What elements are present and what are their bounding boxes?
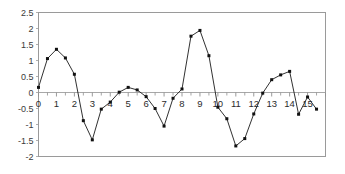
x-axis-tick-label: 13	[266, 98, 277, 109]
data-point-marker	[109, 101, 112, 104]
x-axis-tick-label: 9	[197, 98, 202, 109]
data-point-marker	[270, 78, 273, 81]
data-point-marker	[91, 138, 94, 141]
chart-container: 2.521.510.50-0.5-1-1.5-2 012345678910111…	[0, 0, 345, 174]
data-point-marker	[145, 95, 148, 98]
series-line-path	[39, 30, 317, 146]
data-point-marker	[261, 92, 264, 95]
data-point-marker	[37, 86, 40, 89]
x-axis-tick-label: 5	[126, 98, 131, 109]
data-point-marker	[216, 106, 219, 109]
data-point-marker	[172, 97, 175, 100]
data-point-marker	[82, 119, 85, 122]
data-point-marker	[279, 73, 282, 76]
y-axis-tick-label: 1.5	[21, 40, 34, 50]
plot-frame-group	[39, 13, 326, 157]
data-point-marker	[288, 70, 291, 73]
y-axis-tick-label: 0.5	[21, 72, 34, 82]
data-point-marker	[154, 107, 157, 110]
y-axis-labels: 2.521.510.50-0.5-1-1.5-2	[18, 8, 34, 162]
x-axis-tick-label: 1	[54, 98, 59, 109]
data-point-marker	[55, 48, 58, 51]
data-point-marker	[234, 144, 237, 147]
y-axis-tick-label: 1	[28, 56, 33, 66]
data-point-marker	[136, 88, 139, 91]
x-axis-tick-label: 8	[179, 98, 184, 109]
data-point-marker	[181, 87, 184, 90]
x-axis-tick-label: 11	[231, 98, 241, 109]
y-axis-tick-label: -0.5	[18, 104, 34, 114]
x-axis-tick-label: 0	[36, 98, 41, 109]
x-axis-tick-label: 14	[284, 98, 295, 109]
y-axis-tick-label: 2.5	[21, 8, 34, 18]
series-markers	[37, 29, 318, 148]
x-axis-tick-label: 7	[161, 98, 166, 109]
data-point-marker	[189, 35, 192, 38]
data-point-marker	[252, 112, 255, 115]
data-point-marker	[198, 29, 201, 32]
line-chart: 2.521.510.50-0.5-1-1.5-2 012345678910111…	[0, 0, 345, 174]
x-axis-tick-label: 2	[72, 98, 77, 109]
plot-area-border	[39, 13, 326, 157]
data-point-marker	[207, 54, 210, 57]
data-point-marker	[225, 117, 228, 120]
data-series-line	[39, 30, 317, 146]
y-axis-tick-label: 0	[28, 88, 33, 98]
data-point-marker	[243, 137, 246, 140]
data-point-marker	[297, 113, 300, 116]
data-point-marker	[100, 108, 103, 111]
y-axis-tick-label: -2	[25, 152, 33, 162]
data-point-marker	[315, 108, 318, 111]
y-axis-tick-label: -1.5	[18, 136, 34, 146]
y-axis-tick-label: 2	[28, 24, 33, 34]
data-point-marker	[46, 57, 49, 60]
data-point-marker	[306, 95, 309, 98]
x-axis-tick-label: 3	[90, 98, 95, 109]
x-axis-tick-label: 15	[302, 98, 313, 109]
data-point-marker	[73, 73, 76, 76]
data-point-marker	[127, 86, 130, 89]
x-tick-marks	[39, 93, 326, 97]
data-point-marker	[163, 125, 166, 128]
x-axis-tick-label: 12	[248, 98, 259, 109]
y-axis-tick-label: -1	[25, 120, 33, 130]
data-point-marker	[64, 56, 67, 59]
data-point-marker	[118, 91, 121, 94]
